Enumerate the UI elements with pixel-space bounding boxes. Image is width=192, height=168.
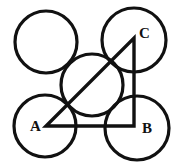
label-a: A (30, 118, 41, 134)
label-b: B (142, 120, 152, 136)
label-c: C (139, 25, 150, 41)
triangle-abc (46, 38, 134, 126)
geometry-diagram: A B C (0, 0, 192, 168)
circle-bottom-right (105, 96, 169, 160)
